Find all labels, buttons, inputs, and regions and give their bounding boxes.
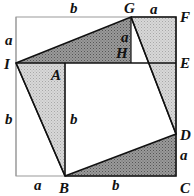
label-G: G (124, 0, 135, 16)
side-label-bottom-a: a (34, 177, 42, 193)
label-A: A (50, 67, 61, 83)
side-label-bottom-b: b (112, 177, 120, 193)
side-label-top-b: b (70, 0, 78, 16)
label-B: B (58, 180, 69, 196)
side-label-inner-b: b (70, 111, 78, 127)
label-F: F (179, 9, 190, 25)
pythagorean-diagram: G F E I A H D C B b a a b b a a a b (0, 0, 194, 196)
side-label-top-a: a (150, 1, 158, 17)
side-label-inner-a: a (121, 29, 129, 45)
label-E: E (179, 55, 190, 71)
side-label-left-a: a (5, 32, 13, 48)
label-H: H (115, 45, 129, 61)
label-C: C (180, 180, 191, 196)
label-I: I (3, 56, 11, 72)
side-label-left-b: b (5, 111, 13, 127)
side-label-right-a: a (180, 147, 188, 163)
label-D: D (179, 127, 191, 143)
